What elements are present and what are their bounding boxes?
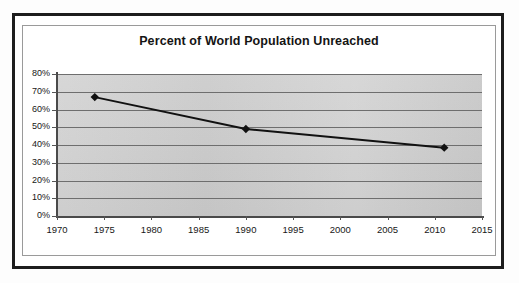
chart-page: Percent of World Population Unreached 0%… <box>0 0 519 283</box>
data-point-marker <box>91 93 99 101</box>
series-line <box>95 97 444 148</box>
data-point-marker <box>440 143 448 151</box>
data-series-layer <box>0 0 519 283</box>
data-point-marker <box>242 125 250 133</box>
